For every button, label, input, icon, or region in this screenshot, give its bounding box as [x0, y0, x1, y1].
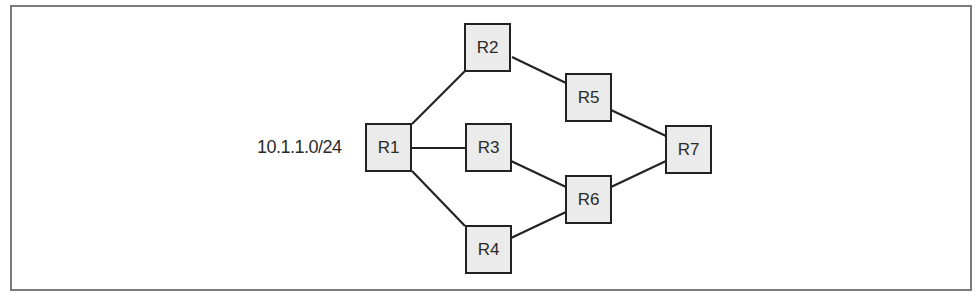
router-r3: R3 — [465, 123, 512, 172]
link-r1-r4 — [412, 171, 465, 226]
link-r1-r2 — [412, 71, 465, 124]
link-r5-r7 — [611, 110, 666, 136]
link-r3-r6 — [511, 161, 566, 187]
router-r1: R1 — [365, 123, 412, 172]
link-r2-r5 — [512, 57, 566, 83]
router-r6: R6 — [565, 175, 612, 224]
link-r6-r7 — [611, 161, 666, 187]
router-r2: R2 — [464, 23, 511, 72]
router-r4: R4 — [465, 225, 512, 274]
router-r5: R5 — [565, 73, 612, 122]
router-r7: R7 — [665, 125, 712, 174]
network-label: 10.1.1.0/24 — [257, 137, 342, 158]
link-r4-r6 — [511, 212, 566, 238]
